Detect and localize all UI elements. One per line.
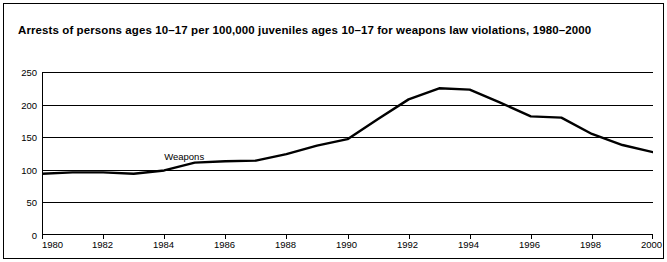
x-tick-label-1992: 1992: [397, 239, 418, 250]
gridline-200: [42, 105, 653, 106]
x-tick-label-1996: 1996: [519, 239, 540, 250]
x-tick-label-1984: 1984: [153, 239, 174, 250]
x-tick-label-1994: 1994: [458, 239, 479, 250]
y-tick-label-200: 200: [21, 99, 37, 110]
x-axis-labels: 1980 1982 1984 1986 1988 1990 1992 1994 …: [42, 235, 658, 253]
gridline-100: [42, 170, 653, 171]
weapons-line-series: [42, 72, 653, 235]
y-axis-line: [42, 72, 43, 235]
chart-frame: Arrests of persons ages 10–17 per 100,00…: [3, 3, 664, 259]
y-tick-label-250: 250: [21, 67, 37, 78]
x-tick-label-1986: 1986: [214, 239, 235, 250]
y-axis-labels: 0 50 100 150 200 250: [4, 72, 37, 235]
y-tick-label-50: 50: [26, 197, 37, 208]
y-tick-label-150: 150: [21, 132, 37, 143]
chart-page: Arrests of persons ages 10–17 per 100,00…: [0, 0, 667, 262]
plot-area: Weapons: [42, 72, 653, 235]
gridline-50: [42, 202, 653, 203]
x-tick-label-1988: 1988: [275, 239, 296, 250]
gridline-250: [42, 72, 653, 73]
y-tick-label-100: 100: [21, 164, 37, 175]
series-label-weapons: Weapons: [164, 151, 204, 162]
x-tick-label-1982: 1982: [92, 239, 113, 250]
y-tick-label-0: 0: [32, 230, 37, 241]
x-tick-label-1980: 1980: [42, 239, 63, 250]
x-tick-label-2000: 2000: [641, 239, 662, 250]
x-tick-label-1998: 1998: [580, 239, 601, 250]
x-tick-label-1990: 1990: [336, 239, 357, 250]
gridline-150: [42, 137, 653, 138]
page-title: Arrests of persons ages 10–17 per 100,00…: [18, 24, 591, 36]
